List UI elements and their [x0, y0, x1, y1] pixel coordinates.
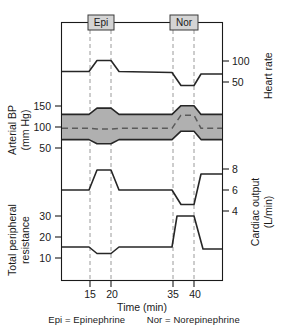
bp-ticklabel-150: 150 [33, 100, 51, 112]
plot-frame [62, 23, 223, 281]
nor-label: Nor [176, 17, 193, 28]
x-ticklabel-15: 15 [84, 288, 96, 300]
hr-axis-title: Heart rate [262, 52, 274, 99]
chart-canvas: Epi Nor 100 50 Heart rate 150 100 50 Art… [0, 0, 288, 330]
x-ticklabel-40: 40 [189, 288, 201, 300]
tpr-axis-title-line1: Total peripheral [6, 204, 18, 276]
co-ticklabel-6: 6 [232, 184, 238, 196]
bp-axis-title-line2: (mm Hg) [19, 110, 31, 151]
tpr-ticklabel-30: 30 [39, 210, 51, 222]
tpr-ticklabel-10: 10 [39, 252, 51, 264]
x-axis-title: Time (min) [117, 301, 167, 313]
caption-nor: Nor = Norepinephrine [147, 314, 240, 325]
hr-ticklabel-50: 50 [232, 76, 244, 88]
drug-marker-epi: Epi [88, 15, 114, 30]
bp-ticklabel-50: 50 [39, 142, 51, 154]
bp-axis-title-line1: Arterial BP [6, 105, 18, 155]
tpr-axis-title-line2: resistance [19, 216, 31, 264]
x-axis: 15 20 35 40 Time (min) [84, 281, 201, 313]
hr-ticklabel-100: 100 [232, 55, 250, 67]
co-ticklabel-4: 4 [232, 205, 238, 217]
x-ticklabel-35: 35 [167, 288, 179, 300]
tpr-ticklabel-20: 20 [39, 231, 51, 243]
epi-label: Epi [94, 17, 108, 28]
bp-ticklabel-100: 100 [33, 121, 51, 133]
co-axis-title-line1: Cardiac output [249, 178, 261, 246]
co-axis-title-line2: (L/min) [262, 196, 274, 229]
figure-legend-caption: Epi = Epinephrine Nor = Norepinephrine [0, 314, 288, 325]
co-ticklabel-8: 8 [232, 163, 238, 175]
caption-epi: Epi = Epinephrine [48, 314, 125, 325]
x-ticklabel-20: 20 [106, 288, 118, 300]
drug-marker-nor: Nor [170, 15, 198, 30]
physiology-figure: Epi Nor 100 50 Heart rate 150 100 50 Art… [0, 0, 288, 330]
